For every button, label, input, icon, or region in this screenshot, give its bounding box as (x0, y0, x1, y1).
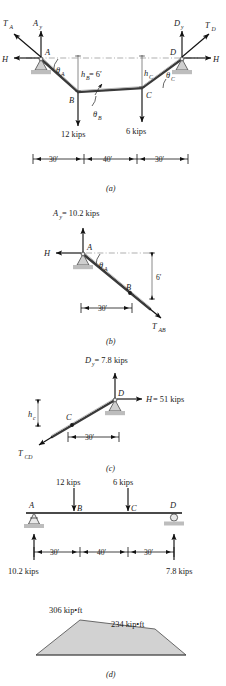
dim-a-ar-0 (36, 157, 41, 161)
dim-b-1: 30′ (98, 304, 108, 313)
panel-a: T A A y H A θ A h B = 6′ B θ B 12 kips h… (1, 19, 220, 193)
label-TAB: T (152, 322, 158, 331)
label-hc-c: h (28, 410, 32, 419)
label-thetaA-sub-b: A (103, 266, 108, 272)
panel-b: A y = 10.2 kips H A θ A B T AB 6′ 30′ (b… (43, 209, 166, 346)
beam-support-d (164, 514, 184, 526)
label-B-joint: B (69, 96, 74, 105)
angle-thetaB-leader-arrow (99, 84, 102, 88)
dim-a-ar-1 (76, 157, 81, 161)
dim-bm-ar-1 (72, 550, 77, 554)
label-Dy: D (173, 19, 180, 28)
caption-d: (d) (106, 670, 116, 679)
label-thetaA-sub: A (60, 71, 65, 77)
label-thetaB: θ (93, 110, 97, 119)
caption-a: (a) (106, 184, 116, 193)
dim-a-ar-2 (87, 157, 92, 161)
dim-beam-1: 30′ (50, 548, 60, 557)
label-hB-eq: = 6′ (89, 70, 102, 79)
beam-label-A: A (28, 501, 35, 510)
label-TCD: T (18, 449, 24, 458)
beam-support-a (24, 513, 44, 528)
label-D-joint-c: D (117, 389, 124, 398)
label-H-b: H (43, 249, 51, 258)
dim-bm-ar-0 (37, 550, 42, 554)
force-TD-arrow (182, 34, 209, 57)
label-Dy-val-c: = 7.8 kips (95, 356, 128, 365)
sag-c-ar-top (36, 399, 39, 404)
dim-c-1: 30′ (85, 433, 95, 442)
moment-peak-B-label: 306 kip•ft (49, 606, 83, 615)
label-H-right: H (212, 55, 220, 64)
dim-a-ar-5 (180, 157, 185, 161)
caption-c: (c) (106, 464, 115, 473)
label-A-joint: A (44, 48, 51, 57)
figure-root: T A A y H A θ A h B = 6′ B θ B 12 kips h… (0, 0, 226, 686)
dim-b-ar-1 (124, 306, 129, 310)
beam-load-B-label: 12 kips (56, 478, 80, 487)
dim-b-ar-0 (84, 306, 89, 310)
sag-b-ar-bot (150, 295, 153, 300)
member-ab (83, 254, 150, 309)
label-H-c: H (145, 395, 153, 404)
tension-TCD-arrow (39, 437, 52, 445)
label-Dy-sub: y (180, 24, 184, 30)
beam-reaction-A-label: 10.2 kips (8, 567, 39, 576)
label-TCD-sub: CD (25, 454, 34, 460)
label-Ay-sub: y (39, 24, 43, 30)
label-H-left: H (1, 55, 9, 64)
support-d-c (105, 398, 125, 415)
label-hC: h (144, 69, 148, 78)
figure-svg: T A A y H A θ A h B = 6′ B θ B 12 kips h… (0, 0, 226, 686)
beam-load-C-label: 6 kips (113, 478, 133, 487)
label-hB: h (81, 70, 85, 79)
label-thetaA-b: θ (99, 261, 103, 270)
label-TD: T (205, 21, 211, 30)
label-TD-sub: D (211, 26, 217, 32)
angle-thetaC-arc (163, 79, 166, 88)
label-TA: T (3, 19, 9, 28)
label-Ay-val-b: = 10.2 kips (62, 209, 100, 218)
beam-label-B: B (77, 504, 82, 513)
dim-a-3: 30′ (155, 155, 165, 164)
label-hc-sub-c: c (33, 415, 36, 421)
label-thetaA: θ (56, 66, 60, 75)
dim-beam-3: 30′ (144, 548, 154, 557)
angle-thetaB-arc (92, 96, 96, 106)
sag-c-ar-bot (36, 422, 39, 427)
label-load-B: 12 kips (61, 130, 85, 139)
beam-reaction-D-label: 7.8 kips (166, 567, 193, 576)
label-hC-sub: C (149, 74, 153, 80)
dim-a-2: 40′ (103, 155, 113, 164)
dim-c-ar-0 (71, 435, 76, 439)
caption-b: (b) (106, 337, 116, 346)
tension-TAB-arrow (150, 309, 161, 318)
label-H-val-c: = 51 kips (153, 395, 184, 404)
label-D-joint: D (169, 48, 176, 57)
panel-moment-diagram: 306 kip•ft 234 kip•ft (d) (36, 606, 186, 679)
member-ab-highlight (84, 253, 151, 308)
joint-c-marker (70, 423, 74, 427)
label-C-joint-c: C (66, 413, 72, 422)
dim-a-1: 30′ (49, 155, 59, 164)
member-cd (52, 400, 115, 437)
moment-peak-C-label: 234 kip•ft (111, 620, 145, 629)
label-thetaC: θ (166, 71, 170, 80)
dim-a-ar-4 (140, 157, 145, 161)
dim-a-ar-3 (129, 157, 134, 161)
beam-label-C: C (131, 504, 137, 513)
label-B-joint-b: B (126, 283, 131, 292)
dim-bm-ar-4 (131, 550, 136, 554)
beam-label-D: D (169, 501, 176, 510)
dim-bm-ar-3 (120, 550, 125, 554)
label-thetaC-sub: C (171, 76, 175, 82)
label-Dy-c: D (84, 356, 91, 365)
label-TA-sub: A (9, 24, 14, 30)
label-TAB-sub: AB (158, 327, 167, 333)
dim-beam-2: 40′ (97, 548, 107, 557)
dim-bm-ar-5 (166, 550, 171, 554)
sag-label-b: 6′ (156, 273, 162, 282)
label-Ay: A (32, 19, 39, 28)
dim-c-ar-1 (111, 435, 116, 439)
panel-c: D y = 7.8 kips H = 51 kips D C h c T CD … (18, 356, 184, 473)
